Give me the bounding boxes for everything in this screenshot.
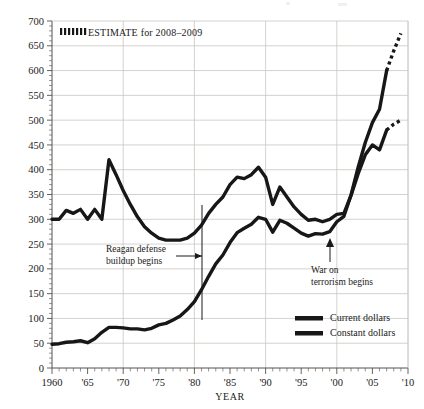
estimate-dot	[68, 28, 70, 35]
y-tick-label: 100	[28, 313, 44, 324]
y-tick-label: 450	[28, 140, 44, 151]
annotation-reagan-line2: buildup begins	[106, 256, 163, 266]
annotation-war-line2: terrorism begins	[311, 277, 373, 287]
x-tick-label: 1960	[42, 377, 63, 388]
x-tick-label: '75	[153, 377, 165, 388]
legend-label-constant: Constant dollars	[330, 327, 395, 338]
y-tick-label: 500	[28, 115, 44, 126]
x-tick-label: '65	[81, 377, 93, 388]
estimate-dot	[84, 28, 86, 35]
chart-background	[0, 0, 424, 409]
x-tick-label: '85	[224, 377, 236, 388]
y-tick-label: 600	[28, 65, 44, 76]
y-tick-label: 50	[34, 338, 45, 349]
x-axis-title: YEAR	[215, 391, 245, 402]
x-tick-label: '10	[402, 377, 414, 388]
x-tick-label: '00	[331, 377, 343, 388]
y-tick-label: 400	[28, 164, 44, 175]
annotation-reagan-line1: Reagan defense	[106, 244, 166, 254]
y-tick-label: 300	[28, 214, 44, 225]
estimate-dot	[76, 28, 78, 35]
estimate-note-label: ESTIMATE for 2008–2009	[88, 27, 202, 38]
legend-swatch-current	[295, 316, 323, 321]
y-tick-label: 550	[28, 90, 44, 101]
y-tick-label: 150	[28, 288, 44, 299]
y-tick-label: 250	[28, 239, 44, 250]
x-tick-label: '95	[295, 377, 307, 388]
y-tick-label: 0	[39, 363, 44, 374]
legend-swatch-constant	[295, 331, 323, 336]
x-tick-label: '05	[366, 377, 378, 388]
estimate-dot	[72, 28, 74, 35]
y-tick-label: 700	[28, 16, 44, 27]
x-tick-label: '90	[259, 377, 271, 388]
legend-label-current: Current dollars	[330, 312, 390, 323]
estimate-dot	[64, 28, 66, 35]
y-tick-label: 650	[28, 40, 44, 51]
estimate-dot	[80, 28, 82, 35]
y-tick-label: 200	[28, 263, 44, 274]
chart-canvas: 0501001502002503003504004505005506006507…	[0, 0, 424, 409]
defense-spending-chart: 0501001502002503003504004505005506006507…	[0, 0, 424, 409]
y-tick-label: 350	[28, 189, 44, 200]
x-tick-label: '80	[188, 377, 200, 388]
y-axis-tick-labels: 0501001502002503003504004505005506006507…	[28, 16, 44, 374]
annotation-war-line1: War on	[311, 265, 339, 275]
estimate-dot	[60, 28, 62, 35]
x-tick-label: '70	[117, 377, 129, 388]
